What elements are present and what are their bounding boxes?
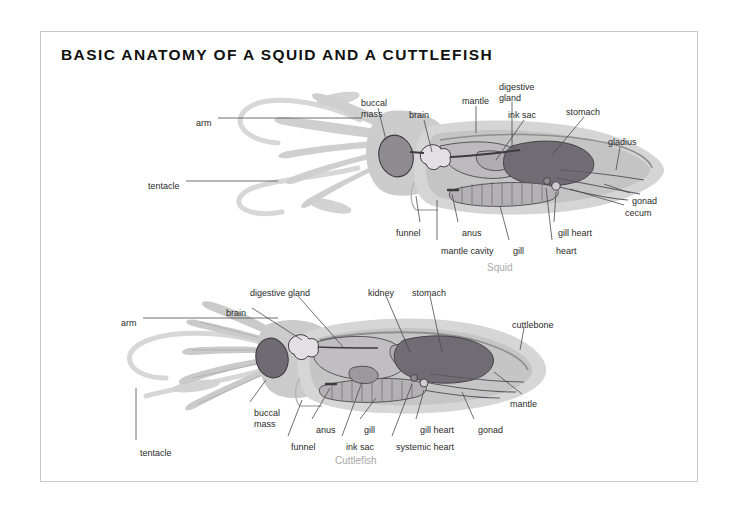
cuttlefish-label-gill: gill — [364, 425, 375, 436]
cuttlefish-label-digestive-gland: digestive gland — [250, 288, 310, 299]
squid-label-mantle: mantle — [462, 96, 489, 107]
squid-label-gladius: gladius — [608, 137, 637, 148]
squid-label-funnel: funnel — [396, 228, 421, 239]
squid-gill-heart — [552, 182, 560, 190]
squid-tentacles — [239, 100, 360, 213]
squid-label-stomach: stomach — [566, 107, 600, 118]
cuttlefish-label-buccal-mass: buccalmass — [254, 408, 280, 430]
cuttlefish-figure — [129, 296, 546, 440]
anatomy-poster: BASIC ANATOMY OF A SQUID AND A CUTTLEFIS… — [0, 0, 730, 510]
cuttlefish-label-funnel: funnel — [291, 442, 316, 453]
squid-label-anus: anus — [462, 228, 482, 239]
cuttlefish-ink-sac — [349, 366, 378, 383]
cuttlefish-label-arm: arm — [121, 318, 137, 329]
squid-label-brain: brain — [409, 110, 429, 121]
cuttlefish-esophagus — [318, 347, 378, 348]
squid-caption: Squid — [487, 262, 513, 273]
cuttlefish-label-kidney: kidney — [368, 288, 394, 299]
squid-label-heart: heart — [556, 246, 577, 257]
squid-label-gill: gill — [513, 246, 524, 257]
squid-label-mantle-cavity: mantle cavity — [441, 246, 494, 257]
cuttlefish-caption: Cuttlefish — [335, 455, 377, 466]
cuttlefish-label-brain: brain — [226, 308, 246, 319]
cuttlefish-gill-heart — [420, 379, 428, 387]
squid-label-buccal-mass: buccalmass — [361, 98, 387, 120]
cuttlefish-label-ink-sac: ink sac — [346, 442, 374, 453]
cuttlefish-label-gonad: gonad — [478, 425, 503, 436]
squid-label-arm: arm — [196, 118, 212, 129]
cuttlefish-label-systemic-heart: systemic heart — [396, 442, 454, 453]
cuttlefish-systemic-heart — [411, 375, 418, 382]
cuttlefish-label-gill-heart: gill heart — [420, 425, 454, 436]
squid-label-cecum: cecum — [625, 208, 652, 219]
squid-label-gonad: gonad — [632, 196, 657, 207]
cuttlefish-label-anus: anus — [316, 425, 336, 436]
cuttlefish-label-tentacle: tentacle — [140, 448, 172, 459]
cuttlefish-label-cuttlebone: cuttlebone — [512, 320, 554, 331]
squid-label-tentacle: tentacle — [148, 181, 180, 192]
cuttlefish-label-mantle: mantle — [510, 399, 537, 410]
cuttlefish-label-stomach: stomach — [412, 288, 446, 299]
squid-label-digestive-gland: digestivegland — [499, 82, 535, 104]
squid-label-ink-sac: ink sac — [508, 110, 536, 121]
squid-label-gill-heart: gill heart — [558, 228, 592, 239]
squid-heart — [544, 178, 551, 185]
